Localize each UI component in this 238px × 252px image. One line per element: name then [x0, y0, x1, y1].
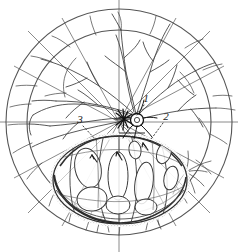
callout-2-label: 2 — [163, 110, 169, 122]
central-disc — [131, 114, 144, 127]
lobule-3 — [108, 152, 128, 200]
lobule-4 — [106, 196, 130, 214]
anatomical-line-diagram: 1 2 3 — [0, 0, 238, 252]
callout-1-label: 1 — [143, 92, 149, 104]
callout-3-label: 3 — [76, 113, 83, 125]
figure-root: 1 2 3 — [0, 0, 238, 252]
